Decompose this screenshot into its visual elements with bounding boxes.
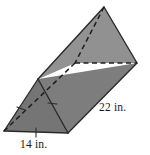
triangular-prism-diagram	[0, 0, 150, 155]
base-dimension-label: 14 in.	[20, 138, 47, 151]
length-dimension-label: 22 in.	[99, 101, 126, 114]
geometry-figure: 22 in. 14 in.	[0, 0, 150, 155]
